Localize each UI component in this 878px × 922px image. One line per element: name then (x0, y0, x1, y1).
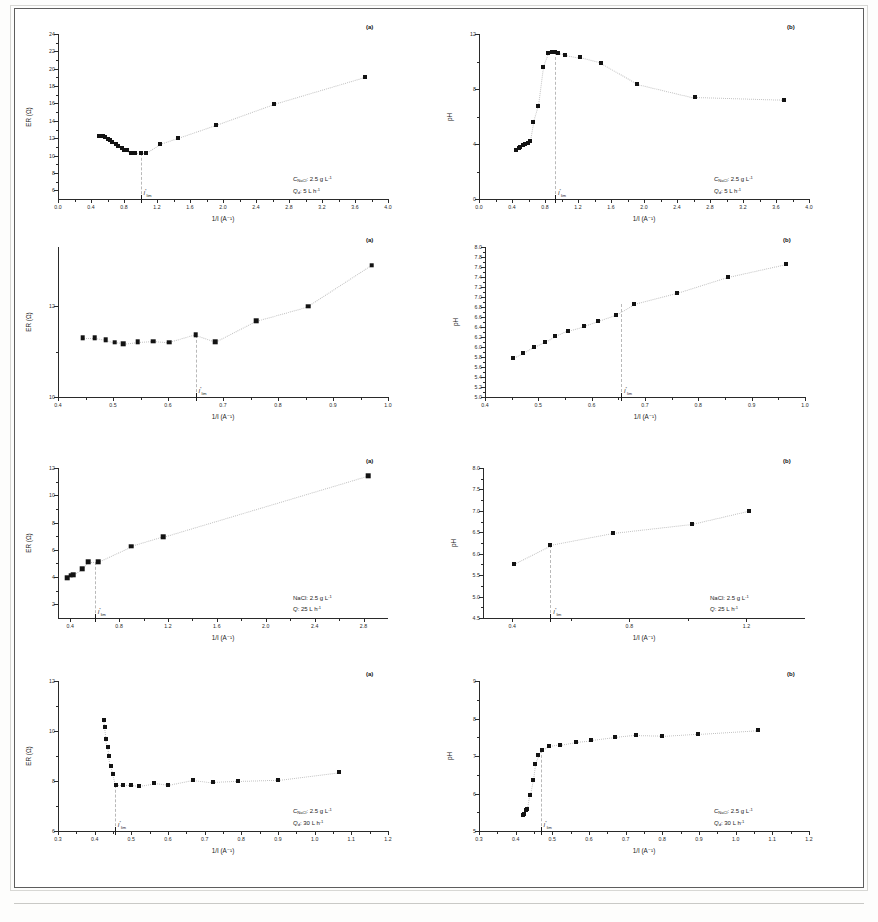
x-tick-minor (571, 831, 572, 834)
x-tick-minor (791, 831, 792, 834)
critical-current-line (115, 785, 116, 831)
y-tick-minor (483, 392, 486, 393)
trend-segment (193, 780, 213, 783)
x-tick-minor (240, 199, 241, 202)
data-point (102, 718, 106, 722)
x-tick (278, 397, 279, 401)
conditions-annotation: NaCl: 2.5 g L-1Q: 25 L h-1 (710, 592, 749, 614)
x-tick (113, 397, 114, 401)
x-tick-label: 2.0 (640, 204, 648, 210)
conditions-annotation: NaCl: 2.5 g L-1Q: 25 L h-1 (293, 592, 332, 614)
y-tick-minor (483, 342, 486, 343)
x-tick-minor (681, 831, 682, 834)
y-tick-minor (483, 322, 486, 323)
y-tick-label: 7 (473, 753, 476, 759)
trend-segment (178, 125, 216, 139)
panel-r3b: 4.55.05.56.06.57.07.58.00.40.81.2I*limpH… (439, 448, 858, 665)
data-point (635, 82, 639, 86)
critical-current-line (196, 335, 197, 397)
data-point (563, 53, 567, 57)
x-axis-title: 1/I (A⁻¹) (634, 413, 657, 420)
y-tick-label: 6.5 (472, 529, 480, 535)
x-tick (645, 397, 646, 401)
x-tick (315, 831, 316, 835)
x-axis-title: 1/I (A⁻¹) (212, 634, 235, 641)
y-tick-label: 8.0 (474, 244, 482, 250)
x-tick-label: 2.4 (673, 204, 681, 210)
x-tick-label: 1.0 (311, 836, 319, 842)
data-point (135, 340, 140, 345)
x-tick-label: 3.6 (351, 204, 359, 210)
trend-segment (514, 545, 551, 564)
x-axis-title: 1/I (A⁻¹) (633, 847, 656, 854)
y-tick-minor (56, 164, 59, 165)
y-tick-label: 4 (473, 141, 476, 147)
y-tick-minor (56, 112, 59, 113)
x-tick (752, 397, 753, 401)
x-tick-minor (754, 831, 755, 834)
x-tick-label: 0.8 (274, 402, 282, 408)
x-tick-minor (628, 199, 629, 202)
data-point (96, 560, 101, 565)
x-tick-minor (223, 831, 224, 834)
y-tick-minor (56, 563, 59, 564)
x-tick-label: 1.2 (153, 204, 161, 210)
x-tick (662, 831, 663, 835)
panel-r4a: 6810120.30.40.50.60.70.80.91.01.11.2I*li… (20, 665, 439, 882)
x-tick (266, 618, 267, 622)
plot-area-r4b: 567890.30.40.50.60.70.80.91.01.11.2I*lim (479, 681, 809, 831)
x-tick-label: 2.4 (252, 204, 260, 210)
data-point (589, 738, 593, 742)
trend-segment (613, 524, 692, 534)
y-tick-label: 9 (473, 678, 476, 684)
x-tick (70, 618, 71, 622)
trend-segment (216, 104, 274, 126)
y-tick-label: 12 (49, 678, 55, 684)
y-tick-minor (483, 332, 486, 333)
critical-current-label: I*lim (558, 188, 566, 198)
data-point (137, 784, 141, 788)
y-tick-minor (483, 302, 486, 303)
y-tick-label: 10 (49, 394, 55, 400)
y-tick-label: 7.2 (474, 284, 482, 290)
x-tick-minor (760, 199, 761, 202)
critical-current-tick (115, 827, 116, 835)
x-tick-minor (192, 618, 193, 621)
critical-current-line (621, 304, 622, 397)
data-point (556, 51, 560, 55)
y-axis-title: pH (450, 539, 457, 547)
data-point (782, 98, 786, 102)
panel-title: (a) (366, 237, 373, 243)
critical-current-tick (141, 195, 142, 203)
y-tick-minor (481, 479, 484, 480)
x-tick-label: 1.6 (186, 204, 194, 210)
data-point (596, 319, 600, 323)
figure-page: 6810121416182022240.00.40.81.21.62.02.42… (0, 0, 878, 922)
x-tick (168, 831, 169, 835)
data-point (114, 783, 118, 787)
trend-segment (213, 781, 238, 783)
data-point (213, 339, 218, 344)
y-axis-r2a (58, 247, 59, 397)
y-tick-minor (481, 543, 484, 544)
data-point (634, 733, 638, 737)
x-tick-label: 0.7 (201, 836, 209, 842)
y-tick-label: 8 (52, 778, 55, 784)
data-point (176, 136, 180, 140)
panel-title: (b) (783, 237, 791, 243)
x-tick-minor (273, 199, 274, 202)
y-tick-label: 7.4 (474, 274, 482, 280)
x-tick-label: 0.4 (66, 623, 74, 629)
y-tick-label: 5.8 (474, 354, 482, 360)
x-tick-label: 0.0 (475, 204, 483, 210)
y-tick-minor (477, 812, 480, 813)
x-axis-title: 1/I (A⁻¹) (212, 215, 235, 222)
x-tick-label: 1.6 (607, 204, 615, 210)
critical-current-tick (541, 827, 542, 835)
y-tick-label: 5.2 (474, 384, 482, 390)
y-tick-minor (483, 362, 486, 363)
data-point (726, 275, 730, 279)
data-point (363, 75, 367, 79)
y-axis-r1a (58, 34, 59, 199)
y-axis-title: pH (446, 752, 453, 760)
